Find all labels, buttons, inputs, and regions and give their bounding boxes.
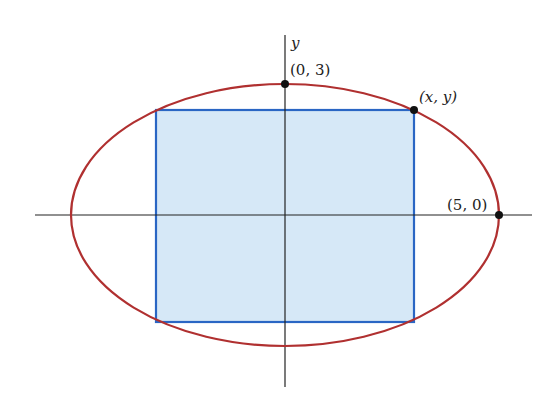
point-corner	[410, 106, 418, 114]
label-corner-point: (x, y)	[419, 88, 457, 106]
label-top-vertex: (0, 3)	[290, 61, 330, 79]
label-right-vertex: (5, 0)	[447, 196, 487, 214]
point-top-vertex	[281, 80, 289, 88]
y-axis-label: y	[290, 34, 300, 52]
point-right-vertex	[495, 211, 503, 219]
ellipse-inscribed-rectangle-diagram: y (0, 3) (x, y) (5, 0)	[0, 0, 560, 405]
